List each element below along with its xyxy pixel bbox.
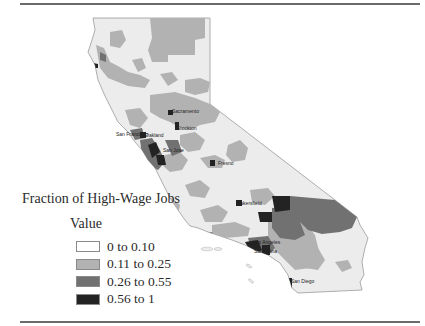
legend-swatch-medium-gray xyxy=(76,276,100,287)
legend-item: 0 to 0.10 xyxy=(76,238,172,256)
legend-item: 0.56 to 1 xyxy=(76,291,172,309)
city-label-san-francisco: San Francisco xyxy=(116,131,148,137)
city-label-fresno: Fresno xyxy=(218,160,234,166)
city-label-oakland: Oakland xyxy=(145,132,164,138)
legend-label: 0.26 to 0.55 xyxy=(107,274,172,290)
legend-subtitle: Value xyxy=(70,216,102,232)
channel-islands xyxy=(201,247,254,284)
legend-item: 0.11 to 0.25 xyxy=(76,256,172,274)
california-map: Sacramento Stockton San Francisco Oaklan… xyxy=(0,0,425,326)
legend-swatch-black xyxy=(76,294,100,305)
legend-label: 0 to 0.10 xyxy=(107,239,155,255)
city-label-sacramento: Sacramento xyxy=(172,108,199,114)
city-label-bakersfield: Bakersfield xyxy=(237,200,262,206)
legend-swatch-light-gray xyxy=(76,259,100,270)
legend-label: 0.11 to 0.25 xyxy=(107,256,171,272)
city-label-stockton: Stockton xyxy=(177,125,197,131)
legend-title: Fraction of High-Wage Jobs xyxy=(22,191,180,207)
legend-swatch-white xyxy=(76,241,100,252)
city-label-san-diego: San Diego xyxy=(291,278,315,284)
legend-item: 0.26 to 0.55 xyxy=(76,273,172,291)
bottom-rule xyxy=(20,321,420,323)
legend: 0 to 0.10 0.11 to 0.25 0.26 to 0.55 0.56… xyxy=(76,238,172,308)
legend-label: 0.56 to 1 xyxy=(107,291,155,307)
city-label-los-angeles: Los Angeles xyxy=(253,239,281,245)
city-label-santa-ana: Santa Ana xyxy=(254,248,277,254)
city-label-san-jose: San Jose xyxy=(163,147,184,153)
